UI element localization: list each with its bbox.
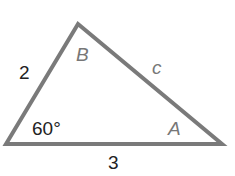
vertex-label-b: B: [76, 45, 89, 64]
vertex-label-a: A: [168, 119, 181, 138]
triangle-figure: [0, 0, 235, 176]
side-label-bottom: 3: [108, 153, 119, 172]
angle-label-60: 60°: [32, 119, 61, 138]
side-label-c: c: [152, 58, 162, 77]
side-label-left: 2: [19, 63, 30, 82]
